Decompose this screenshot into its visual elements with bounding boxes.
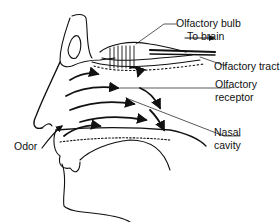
label-odor: Odor (14, 140, 37, 152)
label-olfactory-tract: Olfactory tract (214, 60, 279, 72)
olfactory-diagram: Olfactory bulb To brain Olfactory tract … (0, 0, 280, 222)
label-olfactory-bulb: Olfactory bulb (176, 17, 241, 29)
label-olfactory-receptor-line1: Olfactory (215, 78, 257, 90)
nasal-anatomy-drawing (0, 0, 280, 222)
label-nasal-cavity-line2: cavity (214, 139, 241, 151)
label-to-brain: To brain (187, 30, 224, 42)
label-nasal-cavity-line1: Nasal (214, 126, 241, 138)
label-olfactory-receptor-line2: receptor (215, 91, 254, 103)
